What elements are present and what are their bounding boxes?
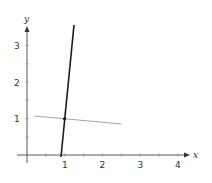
x-tick-label: 2 [100, 160, 106, 170]
x-tick-label: 1 [62, 160, 68, 170]
y-tick-label: 1 [14, 114, 20, 124]
intersection-point [63, 117, 66, 120]
y-tick-label: 2 [14, 78, 20, 88]
y-axis-label: y [23, 14, 30, 24]
y-tick-label: 3 [14, 41, 20, 51]
y-axis-arrow-icon [25, 26, 30, 32]
chart: x y 1 2 3 4 1 2 3 [0, 0, 212, 183]
shallow-line [35, 116, 122, 124]
steep-line [61, 25, 74, 157]
x-axis-arrow-icon [184, 153, 190, 158]
x-axis-label: x [193, 150, 198, 160]
x-tick-label: 3 [138, 160, 144, 170]
x-tick-label: 4 [175, 160, 181, 170]
